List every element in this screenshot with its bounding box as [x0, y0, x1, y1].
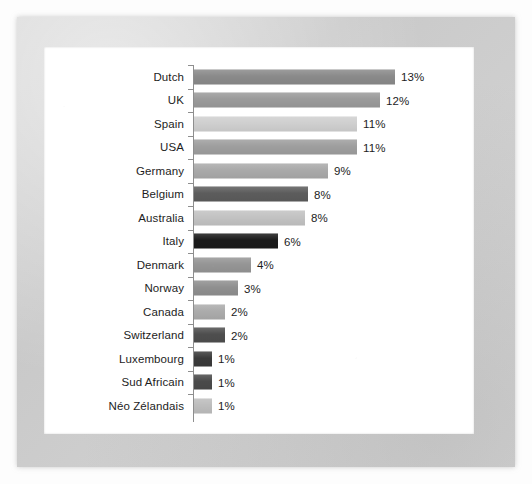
bar [194, 234, 278, 249]
bar-group: 11% [194, 116, 385, 131]
bar-group: 1% [194, 398, 235, 413]
chart-row: Italy6% [44, 230, 474, 254]
chart-row: Switzerland2% [44, 324, 474, 348]
bar-value-label: 1% [218, 353, 235, 365]
scanned-page: Dutch13%UK12%Spain11%USA11%Germany9%Belg… [0, 0, 532, 484]
axis-tick [188, 371, 193, 372]
bar-value-label: 13% [401, 71, 424, 83]
axis-tick [188, 112, 193, 113]
chart-row: Sud Africain1% [44, 371, 474, 395]
axis-tick [188, 253, 193, 254]
axis-tick [188, 159, 193, 160]
bar-value-label: 11% [363, 118, 385, 130]
bar-group: 9% [194, 163, 351, 178]
chart-row: Spain11% [44, 112, 474, 136]
bar [194, 210, 305, 225]
bar [194, 328, 225, 343]
category-label: Luxembourg [119, 353, 184, 365]
bar-group: 11% [194, 140, 385, 155]
bar-group: 6% [194, 234, 301, 249]
chart-row: USA11% [44, 136, 474, 160]
axis-tick [188, 277, 193, 278]
category-label: Canada [143, 306, 184, 318]
bar-value-label: 1% [218, 400, 235, 412]
bar-value-label: 11% [363, 141, 385, 153]
bar-value-label: 8% [314, 188, 331, 200]
bar [194, 398, 212, 413]
bar-group: 8% [194, 210, 328, 225]
category-label: Australia [138, 212, 184, 224]
chart-row: Germany9% [44, 159, 474, 183]
chart-row: Canada2% [44, 300, 474, 324]
category-label: Spain [154, 118, 184, 130]
category-label: Néo Zélandais [109, 400, 184, 412]
bar-value-label: 2% [231, 306, 248, 318]
axis-tick [188, 347, 193, 348]
bar-value-label: 3% [244, 282, 261, 294]
chart-row: Luxembourg1% [44, 347, 474, 371]
axis-tick [188, 65, 193, 66]
bar [194, 304, 225, 319]
axis-tick [188, 136, 193, 137]
chart-row: UK12% [44, 89, 474, 113]
bar [194, 140, 357, 155]
axis-tick [188, 300, 193, 301]
bar-group: 2% [194, 304, 248, 319]
bar-group: 1% [194, 375, 235, 390]
bar-value-label: 9% [334, 165, 351, 177]
category-label: UK [168, 94, 184, 106]
chart-row: Belgium8% [44, 183, 474, 207]
axis-tick [188, 394, 193, 395]
bar-group: 1% [194, 351, 235, 366]
axis-tick [188, 324, 193, 325]
axis-tick [188, 206, 193, 207]
chart-row: Australia8% [44, 206, 474, 230]
bar [194, 163, 328, 178]
bar-value-label: 6% [284, 235, 301, 247]
category-label: Italy [162, 235, 184, 247]
category-label: Dutch [153, 71, 184, 83]
category-label: Sud Africain [121, 376, 184, 388]
category-label: Switzerland [123, 329, 184, 341]
category-label: Germany [136, 165, 184, 177]
bar-group: 12% [194, 93, 409, 108]
bar [194, 375, 212, 390]
bar-group: 13% [194, 69, 424, 84]
bar-chart-plot-area: Dutch13%UK12%Spain11%USA11%Germany9%Belg… [44, 47, 474, 434]
chart-row: Dutch13% [44, 65, 474, 89]
chart-row: Denmark4% [44, 253, 474, 277]
bar [194, 116, 357, 131]
bar-group: 4% [194, 257, 274, 272]
category-label: Belgium [142, 188, 184, 200]
category-label: Denmark [137, 259, 184, 271]
bar-value-label: 2% [231, 329, 248, 341]
bar-value-label: 4% [257, 259, 274, 271]
bar-group: 8% [194, 187, 331, 202]
bar [194, 281, 238, 296]
axis-tick [188, 89, 193, 90]
chart-row: Néo Zélandais1% [44, 394, 474, 418]
bar-group: 2% [194, 328, 248, 343]
axis-tick [188, 230, 193, 231]
bar-group: 3% [194, 281, 261, 296]
bar-value-label: 8% [311, 212, 328, 224]
category-label: USA [160, 141, 184, 153]
bar [194, 257, 251, 272]
chart-row: Norway3% [44, 277, 474, 301]
bar-value-label: 12% [386, 94, 409, 106]
bar [194, 93, 380, 108]
bar-value-label: 1% [218, 376, 235, 388]
category-label: Norway [144, 282, 184, 294]
axis-tick [188, 183, 193, 184]
bar [194, 351, 212, 366]
bar [194, 187, 308, 202]
bar [194, 69, 395, 84]
chart-canvas: Dutch13%UK12%Spain11%USA11%Germany9%Belg… [44, 47, 474, 434]
